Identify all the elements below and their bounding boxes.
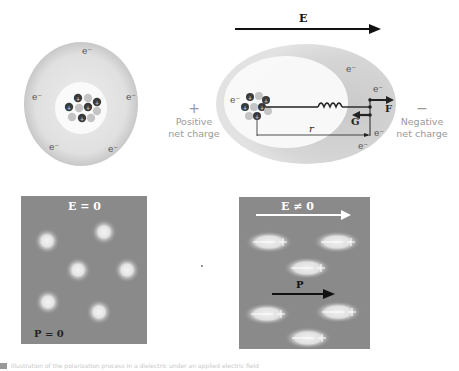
dipole (245, 231, 293, 253)
svg-text:+: + (85, 104, 90, 111)
polarization-zero-label: P = 0 (34, 328, 64, 339)
polarized-atom: + + + + + (214, 40, 398, 166)
svg-text:+: + (259, 104, 264, 111)
electron-label: e⁻ (346, 64, 356, 74)
svg-text:+: + (254, 113, 259, 120)
electron-label: e⁻ (374, 128, 384, 138)
electron-label: e⁻ (358, 141, 368, 151)
distance-label: r (309, 123, 314, 134)
dipole (313, 231, 361, 253)
molecules-random (21, 196, 147, 344)
dipole (284, 327, 332, 349)
electron-label: e⁻ (108, 144, 118, 154)
svg-text:+: + (242, 104, 247, 111)
molecules-aligned (239, 197, 370, 349)
caption-marker-icon (0, 363, 7, 369)
svg-text:+: + (263, 97, 268, 104)
negative-charge-label: − Negative net charge (392, 100, 452, 140)
arrow-right-icon (256, 210, 351, 220)
dipole (243, 303, 291, 325)
neutral-atom-graphic: + + + + + (22, 40, 140, 168)
panel-with-field: E ≠ 0 P (239, 197, 370, 349)
electron-label: e⁻ (230, 95, 240, 105)
svg-text:+: + (94, 99, 99, 106)
electron-label: e⁻ (126, 92, 136, 102)
svg-text:+: + (79, 115, 84, 122)
polarization-arrow (272, 289, 335, 299)
svg-text:+: + (75, 95, 80, 102)
svg-text:+: + (247, 94, 252, 101)
positive-charge-label: + Positive net charge (166, 100, 222, 140)
electron-label: e⁻ (32, 92, 42, 102)
panel-no-field: E = 0 P = 0 (21, 196, 147, 344)
polarization-label: P (296, 279, 304, 290)
electric-field-arrow: E (235, 12, 381, 34)
electron-label: e⁻ (373, 84, 383, 94)
neutral-atom: + + + + + e⁻ e⁻ e⁻ e⁻ e⁻ (22, 40, 140, 168)
electron-label: e⁻ (49, 142, 59, 152)
electron-label: e⁻ (82, 46, 92, 56)
svg-text:+: + (66, 104, 71, 111)
dipole (314, 301, 362, 323)
minus-symbol: − (392, 100, 452, 116)
dipole (283, 257, 331, 279)
dot (201, 265, 203, 267)
figure-caption: Illustration of the polarization process… (0, 362, 459, 371)
polarized-atom-graphic: + + + + + (214, 40, 398, 166)
arrow-right-icon (235, 24, 381, 34)
plus-symbol: + (166, 100, 222, 116)
restoring-force-label: G (351, 116, 360, 127)
